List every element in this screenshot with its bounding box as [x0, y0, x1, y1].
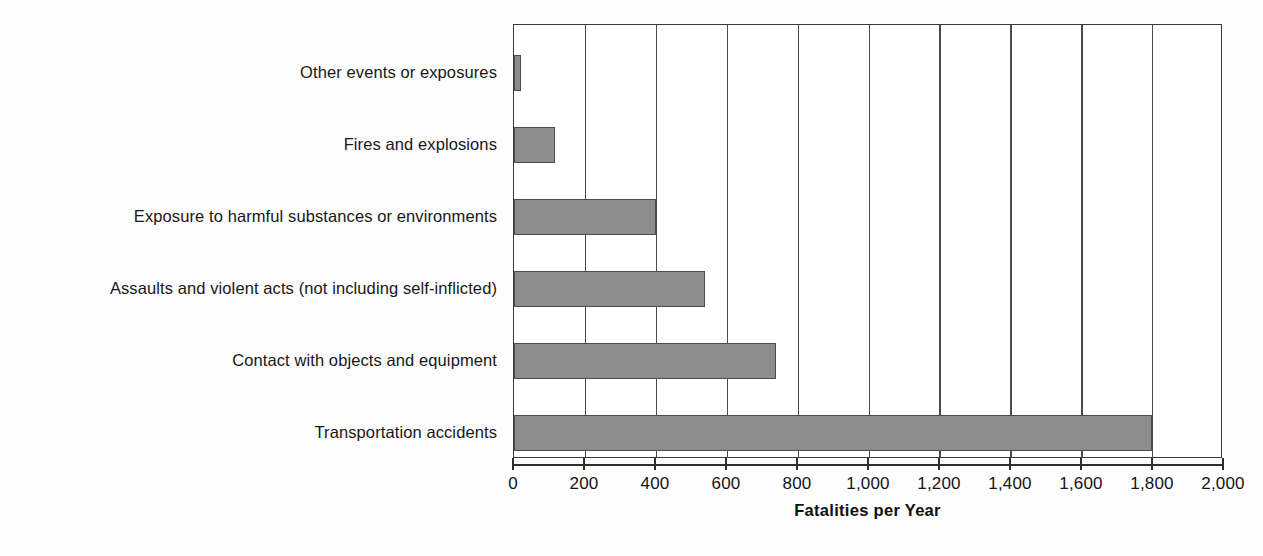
category-label-5: Transportation accidents — [315, 421, 497, 443]
xtick-label-1600: 1,600 — [1059, 474, 1103, 494]
gridline-1400 — [1010, 25, 1011, 457]
bar-transportation-accidents — [514, 415, 1152, 451]
gridline-1200 — [939, 25, 940, 457]
bar-other-events-or-exposures — [514, 55, 521, 91]
xtick-label-800: 800 — [783, 474, 812, 494]
xtick-mark-1400 — [1009, 458, 1011, 470]
xtick-mark-1000 — [867, 458, 869, 470]
category-label-0: Other events or exposures — [300, 61, 497, 83]
xtick-mark-600 — [725, 458, 727, 470]
gridline-1600 — [1081, 25, 1082, 457]
gridline-400 — [656, 25, 657, 457]
xtick-label-200: 200 — [570, 474, 599, 494]
bar-exposure-to-harmful-substances — [514, 199, 656, 235]
category-axis: Other events or exposures Fires and expl… — [0, 24, 505, 458]
xtick-mark-400 — [654, 458, 656, 470]
xtick-mark-200 — [583, 458, 585, 470]
category-label-3: Assaults and violent acts (not including… — [110, 277, 497, 299]
xtick-label-2000: 2,000 — [1201, 474, 1245, 494]
xtick-label-1000: 1,000 — [846, 474, 890, 494]
gridline-1800 — [1152, 25, 1153, 457]
xtick-mark-2000 — [1222, 458, 1224, 470]
xtick-mark-800 — [796, 458, 798, 470]
xtick-label-600: 600 — [712, 474, 741, 494]
xtick-label-0: 0 — [508, 474, 518, 494]
xtick-label-400: 400 — [641, 474, 670, 494]
gridline-1000 — [869, 25, 870, 457]
xtick-mark-0 — [512, 458, 514, 470]
gridline-200 — [585, 25, 586, 457]
category-label-2: Exposure to harmful substances or enviro… — [134, 205, 497, 227]
xtick-label-1200: 1,200 — [917, 474, 961, 494]
bar-chart: Other events or exposures Fires and expl… — [0, 0, 1263, 556]
xtick-mark-1200 — [938, 458, 940, 470]
bar-fires-and-explosions — [514, 127, 555, 163]
gridline-800 — [798, 25, 799, 457]
xtick-mark-1600 — [1080, 458, 1082, 470]
bar-assaults-and-violent-acts — [514, 271, 705, 307]
xtick-label-1800: 1,800 — [1130, 474, 1174, 494]
xtick-mark-1800 — [1151, 458, 1153, 470]
x-axis-title: Fatalities per Year — [513, 501, 1222, 520]
xtick-label-1400: 1,400 — [988, 474, 1032, 494]
category-label-4: Contact with objects and equipment — [232, 349, 497, 371]
plot-area — [513, 24, 1222, 458]
bar-contact-with-objects-and-equipment — [514, 343, 776, 379]
gridline-600 — [727, 25, 728, 457]
category-label-1: Fires and explosions — [344, 133, 497, 155]
